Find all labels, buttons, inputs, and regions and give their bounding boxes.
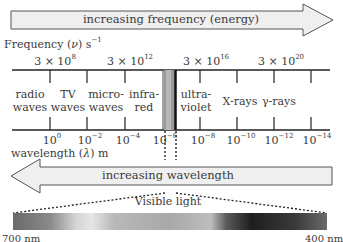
bottom-arrow-label: increasing wavelength [102, 170, 234, 182]
visible-light-label: Visible light [135, 196, 202, 207]
wavelength-axis-label: wavelength (λ) m [11, 148, 108, 159]
region-x-rays: X-rays [223, 95, 258, 108]
wavelength-value: 10−12 [265, 135, 294, 146]
wavelength-value: 100 [43, 135, 61, 146]
region-infrared: infra-red [129, 88, 159, 114]
visible-spectrum-bar [13, 213, 327, 230]
region-radio-waves: radiowaves [13, 88, 47, 114]
frequency-value: 3 × 1012 [107, 56, 153, 67]
region-tv-waves: TVwaves [51, 88, 85, 114]
wavelength-value: 10−2 [78, 135, 102, 146]
wavelength-value: 10−14 [303, 135, 332, 146]
label-700nm: 700 nm [2, 234, 40, 242]
frequency-value: 3 × 108 [34, 56, 76, 67]
region-gamma-rays: γ-rays [262, 95, 296, 108]
wavelength-value: 10−8 [191, 135, 215, 146]
frequency-value: 3 × 1020 [258, 56, 304, 67]
wavelength-value: 10−4 [116, 135, 140, 146]
region-microwaves: micro-waves [88, 88, 124, 114]
frequency-value: 3 × 1016 [183, 56, 229, 67]
top-arrow-label: increasing frequency (energy) [83, 14, 259, 26]
frequency-axis-label: Frequency (ν) s−1 [4, 39, 102, 50]
region-ultraviolet: ultra-violet [181, 88, 212, 114]
label-400nm: 400 nm [305, 234, 343, 242]
wavelength-value: 10−10 [227, 135, 256, 146]
wavelength-value: 10−6 [153, 135, 177, 146]
